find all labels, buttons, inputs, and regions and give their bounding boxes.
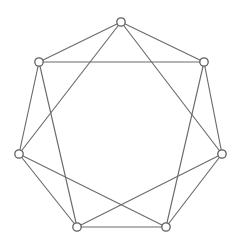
graph-vertex-bottom-left: [73, 223, 81, 231]
graph-edge: [39, 22, 121, 62]
graph-vertex-right: [218, 150, 226, 158]
graph-vertex-upper-left: [35, 58, 43, 66]
vertex-layer: [15, 18, 226, 231]
graph-canvas: [0, 0, 242, 250]
graph-edge: [204, 62, 222, 154]
graph-vertex-left: [15, 150, 23, 158]
graph-edge: [19, 154, 166, 227]
graph-edge: [77, 154, 222, 227]
graph-vertex-top: [117, 18, 125, 26]
graph-edge: [19, 22, 121, 154]
graph-edge: [121, 22, 222, 154]
graph-edge: [121, 22, 204, 62]
graph-figure: [0, 0, 242, 250]
edge-layer: [19, 22, 222, 227]
graph-vertex-upper-right: [200, 58, 208, 66]
graph-vertex-bottom-right: [162, 223, 170, 231]
